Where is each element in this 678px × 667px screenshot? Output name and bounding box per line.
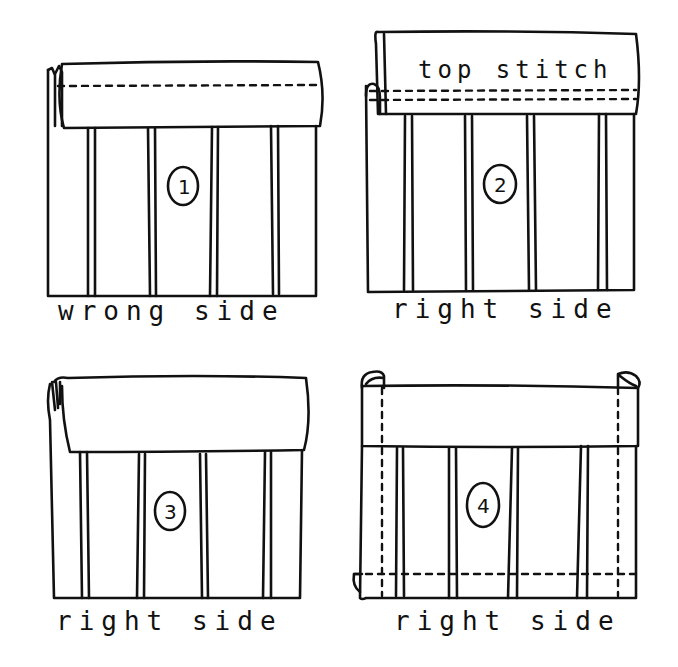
panel-3-folded-band [54,376,309,452]
panel-2-stitch-line-1 [370,90,636,91]
panel-2-stitch-line-2 [370,99,636,100]
panel-4-right-curl [618,372,640,388]
panel-2-label: right side [392,294,619,324]
panel-4-folded-band [362,385,638,447]
panel-step-3: 3 right side [48,376,309,636]
step-number-2: 2 [494,173,507,197]
panel-step-1: 1 wrong side [48,61,323,326]
step-number-4: 4 [477,494,490,518]
panel-1-label: wrong side [58,296,285,326]
sewing-steps-diagram: 1 wrong side top stitch 2 right side 3 [0,0,678,667]
panel-2-annotation: top stitch [418,56,613,84]
panel-3-fold-gather [52,382,60,410]
panel-step-4: 4 right side [354,372,640,637]
panel-step-2: top stitch 2 right side [366,31,639,324]
panel-4-body [360,446,636,599]
step-number-1: 1 [178,175,191,199]
panel-4-label: right side [394,606,621,636]
step-number-3: 3 [164,500,177,524]
panel-1-folded-band [59,61,322,128]
panel-3-label: right side [56,606,283,636]
panel-1-stitch-line [58,85,316,86]
